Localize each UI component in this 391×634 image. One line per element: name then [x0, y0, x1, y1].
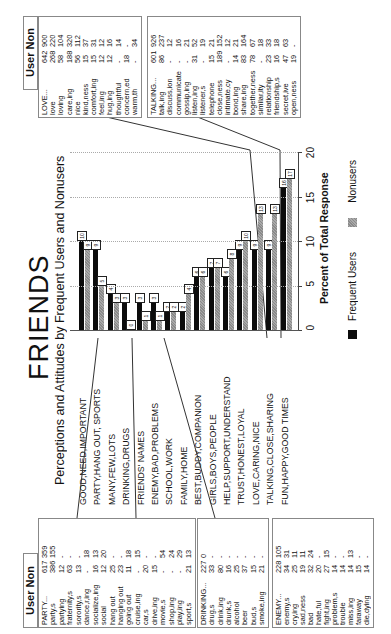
table-drinking: DRINKING...2270drug,s33-drink,ing80-drun…	[197, 518, 269, 628]
table-cell-user: 33	[208, 558, 216, 573]
bar-frequent-users	[266, 250, 271, 330]
bar-nonusers	[85, 250, 90, 330]
table-cell-word: smoke,ing	[258, 573, 266, 625]
value-label: 6	[198, 267, 208, 277]
table-cell-user: 19	[290, 47, 298, 63]
table-cell-word: movie,s	[159, 573, 167, 625]
table-cell-non: 54	[159, 543, 167, 558]
value-label: 3	[149, 293, 159, 303]
table-cell-non: -	[363, 543, 371, 558]
bar-nonusers	[143, 321, 148, 330]
bar-frequent-users	[237, 250, 242, 330]
table-cell-word: warm,th	[131, 63, 139, 115]
table-cell-non: 18	[83, 543, 91, 558]
x-tick-label: 5	[306, 281, 316, 287]
table-cell-non: 13	[185, 543, 193, 558]
gridline	[70, 152, 298, 153]
bar-nonusers	[171, 312, 176, 330]
bar-nonusers	[157, 321, 162, 330]
table-cell-word: beer	[241, 573, 249, 625]
bar-frequent-users	[209, 268, 214, 330]
table-cell-word: drug,s	[208, 573, 216, 625]
table-cell-user: 21	[258, 558, 266, 573]
gridline	[70, 241, 298, 242]
table-cell-user: 12	[100, 558, 108, 573]
bar-nonusers	[229, 259, 234, 330]
bar-nonusers	[258, 214, 263, 330]
bar-frequent-users	[281, 188, 286, 330]
table-party: PARTY...617359party,s386155partying12-fr…	[38, 518, 196, 628]
table-cell-word: social	[100, 573, 108, 625]
bar-nonusers	[114, 303, 119, 330]
value-label: 13	[256, 204, 266, 214]
value-label: 17	[285, 169, 295, 179]
table-cell-non: -	[241, 543, 249, 558]
bar-nonusers	[215, 268, 220, 330]
value-label: 3	[120, 293, 130, 303]
bar-nonusers	[99, 286, 104, 331]
bar-frequent-users	[165, 312, 170, 330]
table-cell-non: 34	[131, 31, 139, 47]
table-cell-user: 14	[363, 558, 371, 573]
gridline	[70, 197, 298, 198]
table-cell-word: sport,s	[185, 573, 193, 625]
gridline	[70, 286, 298, 287]
table-cell-non: 20	[100, 543, 108, 558]
bar-frequent-users	[180, 312, 185, 330]
table-cell-non: 29	[176, 543, 184, 558]
value-label: 1	[155, 311, 165, 321]
table-cell-user: -	[159, 558, 167, 573]
table-cell-user: 37	[241, 558, 249, 573]
value-label: 0	[126, 320, 136, 330]
table-header: User Non	[23, 553, 38, 628]
x-tick-label: 15	[306, 192, 316, 203]
x-tick-label: 20	[306, 147, 316, 158]
table-cell-user: -	[83, 558, 91, 573]
x-tick-label: 0	[306, 325, 316, 331]
bar-frequent-users	[93, 250, 98, 330]
value-axis-line	[298, 152, 299, 330]
bar-nonusers	[272, 214, 277, 330]
value-label: 13	[270, 204, 280, 214]
table-cell-word: dance,r,ing	[83, 573, 91, 625]
table-cell-word: open,ness	[290, 63, 298, 115]
table-cell-word: play,ing	[176, 573, 184, 625]
table-cell-user: 21	[185, 558, 193, 573]
table-talking: TALKING...601926talk,ing86237discuss,ion…	[147, 16, 301, 118]
x-tick-label: 10	[306, 236, 316, 247]
table-cell-non: -	[208, 543, 216, 558]
table-header: User Non	[23, 16, 38, 90]
bar-frequent-users	[252, 250, 257, 330]
value-label: 1	[141, 311, 151, 321]
bar-nonusers	[186, 294, 191, 330]
table-cell-user: -	[131, 47, 139, 63]
table-cell-user: -	[176, 558, 184, 573]
table-love: LOVE...642900love268220loving58104care,i…	[38, 16, 142, 118]
value-label: 3	[135, 293, 145, 303]
table-cell-non: -	[290, 31, 298, 47]
table-enemy: ENEMY...228105enemy,s3431cry,ing2511sad,…	[272, 518, 374, 628]
baseline	[70, 330, 299, 331]
table-cell-word: die,dying	[363, 573, 371, 625]
value-label: 8	[227, 249, 237, 259]
bar-nonusers	[287, 179, 292, 330]
table-cell-non: -	[258, 543, 266, 558]
